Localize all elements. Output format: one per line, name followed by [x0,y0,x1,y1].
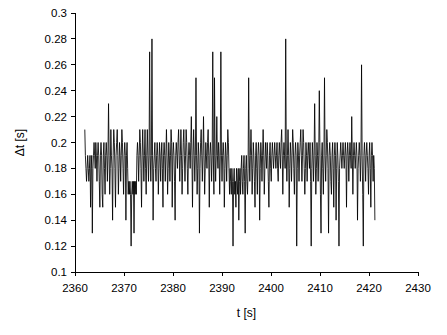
x-tick-label: 2400 [258,282,284,294]
x-tick-label: 2430 [405,282,431,294]
x-tick-label: 2360 [62,282,88,294]
y-tick-label: 0.1 [51,266,67,278]
data-series-line [85,39,375,246]
y-tick-label: 0.22 [45,111,67,123]
x-axis-tick-marks [75,272,418,276]
y-tick-label: 0.12 [45,240,67,252]
y-axis-title: Δt [s] [13,129,27,156]
y-tick-label: 0.3 [51,7,67,19]
x-axis-title: t [s] [237,306,256,320]
y-tick-label: 0.24 [45,85,68,97]
y-axis-tick-marks [71,13,75,272]
x-tick-label: 2410 [307,282,333,294]
y-tick-label: 0.18 [45,162,67,174]
x-tick-label: 2420 [356,282,382,294]
y-tick-label: 0.16 [45,188,67,200]
y-tick-label: 0.2 [51,137,67,149]
y-tick-label: 0.28 [45,33,67,45]
chart-plot: 0.10.120.140.160.180.20.220.240.260.280.… [0,0,447,335]
y-tick-label: 0.14 [45,214,68,226]
x-tick-label: 2390 [209,282,235,294]
x-tick-label: 2380 [160,282,186,294]
y-axis-tick-labels: 0.10.120.140.160.180.20.220.240.260.280.… [45,7,68,278]
y-tick-label: 0.26 [45,59,67,71]
chart-container: 0.10.120.140.160.180.20.220.240.260.280.… [0,0,447,335]
x-tick-label: 2370 [111,282,137,294]
x-axis-tick-labels: 23602370238023902400241024202430 [62,282,431,294]
